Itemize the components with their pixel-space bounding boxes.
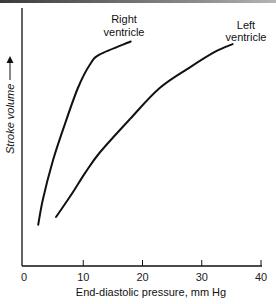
- x-tick-label: 0: [21, 271, 27, 283]
- arrow-up-icon: [7, 56, 14, 63]
- x-axis-label: End-diastolic pressure, mm Hg: [76, 286, 226, 298]
- left-ventricle-curve: [56, 44, 233, 217]
- x-ticks: 010203040: [21, 260, 267, 283]
- x-tick-label: 30: [196, 271, 208, 283]
- x-tick-label: 10: [77, 271, 89, 283]
- left-ventricle-label-line2: ventricle: [226, 31, 267, 43]
- left-ventricle-label-line1: Left: [237, 19, 255, 31]
- y-axis-label-group: Stroke volume: [4, 56, 16, 154]
- y-axis-label: Stroke volume: [4, 84, 16, 154]
- x-tick-label: 20: [136, 271, 148, 283]
- right-ventricle-label-line2: ventricle: [104, 26, 145, 38]
- stroke-volume-chart: 010203040 Right ventricle Left ventricle…: [0, 0, 276, 304]
- right-ventricle-label-line1: Right: [111, 13, 137, 25]
- x-tick-label: 40: [255, 271, 267, 283]
